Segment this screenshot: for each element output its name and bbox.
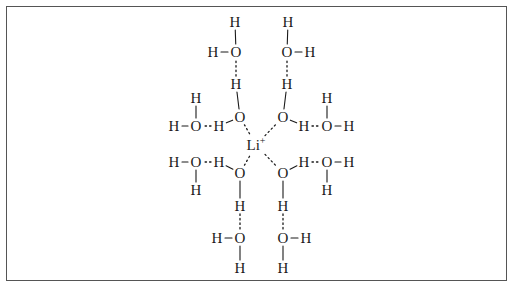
coordination-bond <box>244 125 249 134</box>
atom-label-h: H <box>344 155 355 170</box>
atom-label-h: H <box>235 199 246 214</box>
atom-label-o: O <box>278 110 289 125</box>
coordination-bond <box>265 123 277 135</box>
atom-label-h: H <box>191 91 202 106</box>
atom-label-h: H <box>169 155 180 170</box>
atom-label-h: H <box>322 183 333 198</box>
atom-label-h: H <box>235 261 246 276</box>
atom-label-h: H <box>299 155 310 170</box>
atom-label-o: O <box>322 155 333 170</box>
covalent-bond <box>226 166 233 170</box>
atom-label-o: O <box>278 231 289 246</box>
atom-label-o: O <box>191 119 202 134</box>
atom-label-h: H <box>299 119 310 134</box>
atom-label-h: H <box>231 77 242 92</box>
atom-label-o: O <box>282 45 293 60</box>
atom-label-h: H <box>278 199 289 214</box>
atom-label-o: O <box>322 119 333 134</box>
atom-label-h: H <box>305 45 316 60</box>
atom-label-o: O <box>231 45 242 60</box>
atom-label-h: H <box>282 77 293 92</box>
atom-label-h: H <box>322 91 333 106</box>
figure-container: HHHOOHHHHHHOHOOHOHHOHOOHOHHHHHHOOHHHLi+ <box>0 0 515 289</box>
atom-label-o: O <box>191 155 202 170</box>
atom-label-h: H <box>169 119 180 134</box>
covalent-bond <box>290 120 296 123</box>
atom-label-h: H <box>212 231 223 246</box>
atom-label-o: O <box>235 166 246 181</box>
coordination-bond <box>265 154 277 166</box>
atom-label-h: H <box>230 15 241 30</box>
central-ion-label: Li+ <box>247 138 266 153</box>
covalent-bond <box>226 120 232 123</box>
atom-label-o: O <box>278 166 289 181</box>
covalent-bond <box>284 92 286 109</box>
covalent-bond <box>237 92 239 109</box>
atom-label-h: H <box>283 15 294 30</box>
atom-label-h: H <box>191 183 202 198</box>
atom-label-h: H <box>214 155 225 170</box>
atom-label-h: H <box>344 119 355 134</box>
atom-label-h: H <box>214 119 225 134</box>
covalent-bond <box>290 166 297 170</box>
atom-label-o: O <box>235 231 246 246</box>
atom-label-h: H <box>301 231 312 246</box>
atom-label-o: O <box>235 110 246 125</box>
atom-label-h: H <box>208 45 219 60</box>
atom-label-h: H <box>278 261 289 276</box>
